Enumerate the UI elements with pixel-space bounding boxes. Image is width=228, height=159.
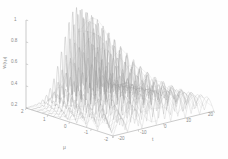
z-tick-label-3: 0.6 — [11, 60, 17, 65]
mu-tick-label-5: -2 — [104, 138, 108, 143]
mu-tick-label-3: 0 — [64, 125, 67, 130]
mu-axis-title: μ — [63, 145, 66, 150]
t-tick-label-4: 10 — [186, 119, 191, 124]
t-tick-label-2: -10 — [140, 131, 147, 136]
z-tick-label-5: 0.2 — [11, 103, 17, 108]
plot-canvas — [0, 0, 228, 159]
z-tick-label-4: 0.4 — [11, 82, 17, 87]
mu-tick-label-1: 2 — [21, 110, 24, 115]
z-tick-label-1: 1 — [14, 18, 17, 23]
mesh-surface — [26, 8, 214, 136]
t-tick-label-1: -20 — [118, 137, 125, 142]
z-axis-title: W(t,μ) — [3, 60, 7, 69]
mu-tick-label-4: -1 — [84, 131, 88, 136]
t-tick-label-5: 20 — [208, 113, 213, 118]
t-axis-title: t — [152, 137, 153, 142]
t-tick-label-3: 0 — [164, 125, 167, 130]
wavelet-3d-mesh-figure: W(t,μ) 1 0.8 0.6 0.4 0.2 2 1 0 -1 -2 μ -… — [0, 0, 228, 159]
mu-tick-label-2: 1 — [43, 118, 46, 123]
z-tick-label-2: 0.8 — [11, 39, 17, 44]
